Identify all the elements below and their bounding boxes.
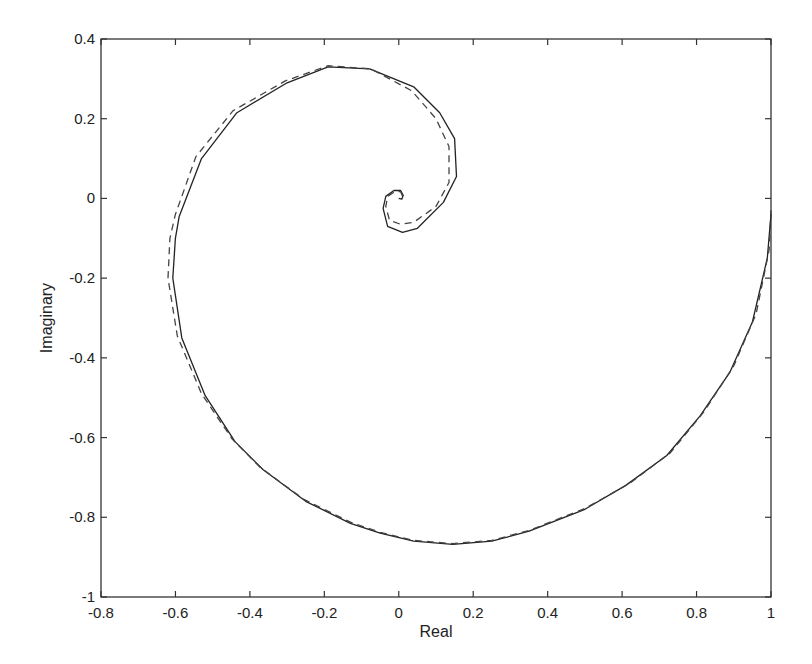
x-tick-label: -0.6 — [163, 604, 189, 621]
y-tick-label: -1 — [82, 588, 95, 605]
x-tick-label: 0.6 — [612, 604, 633, 621]
plot-frame — [101, 39, 771, 597]
series-dashed-line — [168, 66, 771, 544]
x-tick-label: 1 — [767, 604, 775, 621]
series-layer — [168, 66, 771, 545]
y-tick-label: 0.4 — [74, 30, 95, 47]
y-tick-label: -0.4 — [69, 349, 95, 366]
x-tick-label: -0.2 — [311, 604, 337, 621]
x-axis-label: Real — [420, 623, 453, 640]
y-tick-label: -0.6 — [69, 429, 95, 446]
x-tick-label: -0.8 — [88, 604, 114, 621]
x-tick-label: 0.4 — [537, 604, 558, 621]
x-tick-label: -0.4 — [237, 604, 263, 621]
y-tick-label: 0 — [87, 189, 95, 206]
y-tick-label: 0.2 — [74, 110, 95, 127]
x-tick-label: 0 — [395, 604, 403, 621]
y-axis-label: Imaginary — [38, 283, 55, 353]
x-tick-label: 0.8 — [686, 604, 707, 621]
chart: -0.8-0.6-0.4-0.200.20.40.60.81-1-0.8-0.6… — [0, 0, 812, 664]
y-tick-label: -0.2 — [69, 269, 95, 286]
x-tick-label: 0.2 — [463, 604, 484, 621]
series-solid-line — [173, 67, 771, 545]
y-tick-label: -0.8 — [69, 508, 95, 525]
